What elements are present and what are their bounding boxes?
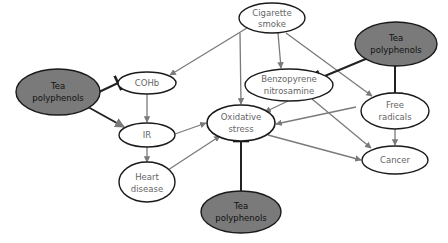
node-cigarette-smoke: Cigarette smoke (239, 3, 305, 33)
label-heart-disease-line2: disease (131, 184, 163, 194)
tea-polyphenols-pathway-diagram: Cigarette smoke Tea polyphenols Tea poly… (0, 0, 448, 243)
node-tea-polyphenols-left: Tea polyphenols (16, 69, 100, 115)
edge-smoke-to-benzopyrene (278, 33, 281, 68)
label-benzopyrene-line1: Benzopyrene (261, 74, 317, 84)
label-free-radicals-line1: Free (386, 100, 404, 110)
label-tea-bottom-line2: polyphenols (215, 213, 267, 223)
node-ir: IR (119, 123, 175, 147)
label-cohb: COHb (135, 78, 159, 88)
edge-tea-left-inhibits-ir (88, 107, 124, 127)
node-oxidative-stress: Oxidative stress (207, 105, 275, 141)
node-tea-polyphenols-top-right: Tea polyphenols (355, 22, 437, 66)
label-free-radicals-line2: radicals (378, 112, 412, 122)
edge-free-radicals-to-oxidative (276, 107, 356, 124)
label-oxidative-stress-line1: Oxidative (221, 112, 262, 122)
label-tea-left-line2: polyphenols (32, 93, 84, 103)
node-cancer: Cancer (362, 146, 428, 174)
edge-heart-to-oxidative (168, 136, 220, 170)
label-ir: IR (143, 130, 152, 140)
edge-smoke-to-cohb (170, 28, 247, 75)
label-cancer: Cancer (380, 155, 410, 165)
node-tea-polyphenols-bottom: Tea polyphenols (201, 191, 281, 233)
edge-oxidative-to-cancer (268, 135, 361, 160)
edge-smoke-to-oxidative (240, 33, 241, 104)
label-oxidative-stress-line2: stress (228, 124, 254, 134)
node-cohb: COHb (118, 72, 176, 94)
label-tea-top-right-line1: Tea (388, 33, 403, 43)
label-cigarette-smoke-line1: Cigarette (252, 8, 291, 18)
label-tea-left-line1: Tea (50, 81, 65, 91)
label-benzopyrene-line2: nitrosamine (264, 86, 315, 96)
edge-ir-to-oxidative (175, 123, 206, 134)
label-cigarette-smoke-line2: smoke (258, 19, 286, 29)
edge-tea-left-inhibits-cohb (99, 83, 118, 92)
label-heart-disease-line1: Heart (135, 172, 159, 182)
node-free-radicals: Free radicals (361, 93, 429, 129)
label-tea-bottom-line1: Tea (233, 201, 248, 211)
node-benzopyrene-nitrosamine: Benzopyrene nitrosamine (245, 69, 333, 101)
label-tea-top-right-line2: polyphenols (370, 45, 422, 55)
node-heart-disease: Heart disease (119, 162, 175, 202)
edge-benzopyrene-to-oxidative (265, 101, 288, 112)
